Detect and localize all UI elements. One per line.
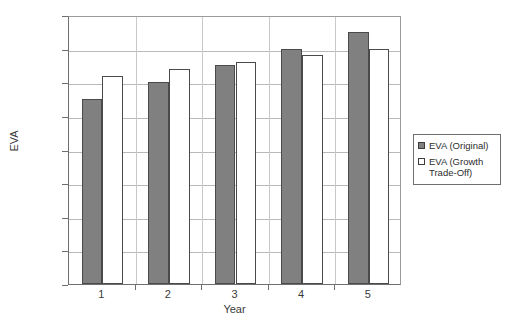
bar: [302, 55, 323, 284]
eva-bar-chart: EVA $-$1.00$2.00$3.00$4.00$5.00$6.00$7.0…: [0, 0, 511, 325]
bar: [215, 65, 236, 284]
x-tick-label: 4: [268, 288, 334, 300]
bar: [82, 99, 103, 284]
category-separator: [136, 17, 137, 284]
legend-item: EVA (Original): [418, 140, 496, 151]
bar: [348, 32, 369, 284]
legend-swatch-icon: [418, 158, 425, 165]
y-tick-mark: [62, 285, 68, 286]
plot-area: [68, 16, 401, 285]
y-axis-ticks: $-$1.00$2.00$3.00$4.00$5.00$6.00$7.00$8.…: [0, 0, 64, 325]
legend-label: EVA (Original): [429, 140, 496, 151]
chart-legend: EVA (Original)EVA (Growth Trade-Off): [413, 134, 501, 185]
bar: [102, 76, 123, 284]
bar: [236, 62, 257, 284]
category-separator: [335, 17, 336, 284]
x-tick-label: 3: [202, 288, 268, 300]
x-tick-label: 1: [68, 288, 134, 300]
x-tick-label: 2: [135, 288, 201, 300]
legend-item: EVA (Growth Trade-Off): [418, 156, 496, 178]
legend-swatch-icon: [418, 142, 425, 149]
bar: [281, 49, 302, 284]
category-separator: [202, 17, 203, 284]
bar: [169, 69, 190, 284]
x-axis-title: Year: [68, 303, 401, 315]
bar: [148, 82, 169, 284]
category-separator: [269, 17, 270, 284]
bar: [369, 49, 390, 284]
legend-label: EVA (Growth Trade-Off): [429, 156, 496, 178]
x-tick-label: 5: [335, 288, 401, 300]
